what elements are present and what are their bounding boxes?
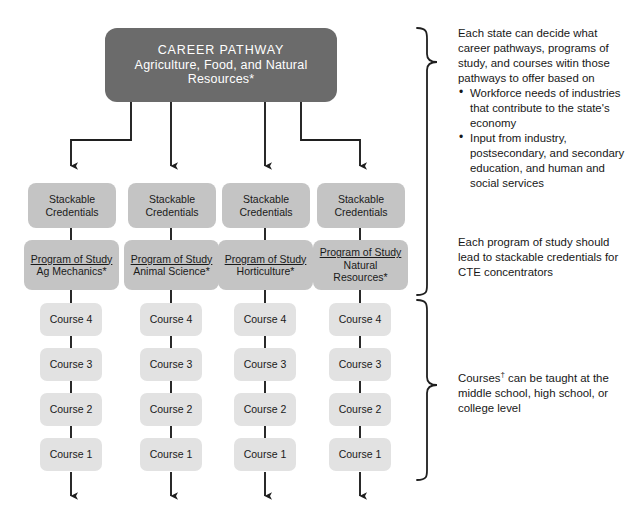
note-program-text: Each program of study should lead to sta…: [458, 235, 626, 280]
program-name-line-2: Resources*: [333, 271, 387, 283]
course-col3-3: Course 3: [234, 348, 296, 381]
program-title: Program of Study: [320, 246, 402, 258]
stackable-credentials-col4: Stackable Credentials: [317, 183, 405, 228]
course-col3-1: Course 1: [234, 438, 296, 471]
credentials-line-1: Stackable: [149, 193, 195, 205]
course-label: Course 1: [150, 448, 193, 460]
header-career-pathway: CAREER PATHWAY Agriculture, Food, and Na…: [105, 28, 337, 102]
course-label: Course 4: [244, 313, 287, 325]
program-name: Horticulture*: [237, 265, 295, 277]
brace-lower: [417, 300, 437, 480]
note-course-prefix: Courses: [458, 372, 500, 384]
course-col1-3: Course 3: [40, 348, 102, 381]
program-name: Animal Science*: [133, 265, 209, 277]
course-col1-1: Course 1: [40, 438, 102, 471]
credentials-line-2: Credentials: [239, 206, 292, 218]
course-label: Course 2: [150, 403, 193, 415]
credentials-line-2: Credentials: [145, 206, 198, 218]
note-course-text: Courses† can be taught at the middle sch…: [458, 367, 626, 416]
header-line-2: Agriculture, Food, and Natural: [135, 58, 308, 73]
course-col3-2: Course 2: [234, 393, 296, 426]
stackable-credentials-col2: Stackable Credentials: [128, 183, 216, 228]
note-course-levels: Courses† can be taught at the middle sch…: [458, 367, 626, 416]
course-col2-3: Course 3: [140, 348, 202, 381]
course-label: Course 2: [50, 403, 93, 415]
course-label: Course 1: [339, 448, 382, 460]
note-state-bullet: Input from industry, postsecondary, and …: [458, 131, 626, 191]
credentials-line-1: Stackable: [49, 193, 95, 205]
stackable-credentials-col3: Stackable Credentials: [222, 183, 310, 228]
brace-upper: [417, 28, 437, 295]
course-col2-1: Course 1: [140, 438, 202, 471]
course-label: Course 1: [50, 448, 93, 460]
credentials-line-1: Stackable: [243, 193, 289, 205]
course-label: Course 4: [339, 313, 382, 325]
program-title: Program of Study: [131, 253, 213, 265]
program-of-study-col4: Program of Study Natural Resources*: [313, 240, 408, 290]
course-col4-2: Course 2: [329, 393, 391, 426]
program-title: Program of Study: [225, 253, 307, 265]
program-name: Natural: [344, 259, 378, 271]
program-of-study-col2: Program of Study Animal Science*: [124, 240, 219, 290]
program-of-study-col3: Program of Study Horticulture*: [218, 240, 313, 290]
course-col1-4: Course 4: [40, 303, 102, 336]
header-line-1: CAREER PATHWAY: [158, 43, 285, 58]
course-col2-4: Course 4: [140, 303, 202, 336]
course-label: Course 3: [244, 358, 287, 370]
course-label: Course 4: [150, 313, 193, 325]
stackable-credentials-col1: Stackable Credentials: [28, 183, 116, 228]
course-col4-4: Course 4: [329, 303, 391, 336]
note-state-decisions: Each state can decide what career pathwa…: [458, 26, 626, 191]
course-label: Course 3: [50, 358, 93, 370]
credentials-line-1: Stackable: [338, 193, 384, 205]
course-label: Course 2: [244, 403, 287, 415]
course-label: Course 4: [50, 313, 93, 325]
credentials-line-2: Credentials: [334, 206, 387, 218]
note-state-paragraph: Each state can decide what career pathwa…: [458, 26, 626, 86]
course-col4-3: Course 3: [329, 348, 391, 381]
credentials-line-2: Credentials: [45, 206, 98, 218]
note-program-of-study: Each program of study should lead to sta…: [458, 235, 626, 280]
note-state-bullet: Workforce needs of industries that contr…: [458, 86, 626, 131]
course-label: Course 1: [244, 448, 287, 460]
program-title: Program of Study: [31, 253, 113, 265]
header-line-3: Resources*: [188, 72, 255, 87]
header-to-credentials-connectors: [71, 102, 360, 166]
note-state-bullet-list: Workforce needs of industries that contr…: [458, 86, 626, 191]
bottom-flow-arrows: [71, 472, 360, 496]
course-label: Course 3: [339, 358, 382, 370]
program-of-study-col1: Program of Study Ag Mechanics*: [24, 240, 119, 290]
course-col1-2: Course 2: [40, 393, 102, 426]
program-name: Ag Mechanics*: [36, 265, 106, 277]
course-label: Course 2: [339, 403, 382, 415]
course-col4-1: Course 1: [329, 438, 391, 471]
course-col3-4: Course 4: [234, 303, 296, 336]
course-col2-2: Course 2: [140, 393, 202, 426]
course-label: Course 3: [150, 358, 193, 370]
